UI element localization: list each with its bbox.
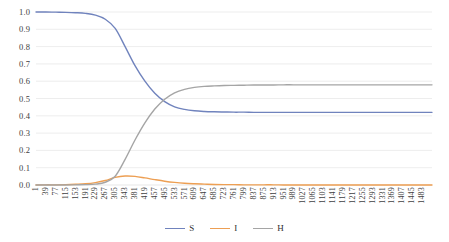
- x-axis-tick: 571: [180, 187, 190, 215]
- legend-label: S: [189, 223, 194, 233]
- x-axis-tick: 1027: [298, 187, 308, 215]
- x-axis-tick-label: 685: [210, 187, 218, 200]
- line-chart: 0.00.10.20.30.40.50.60.70.80.91.0 139771…: [0, 0, 449, 242]
- y-axis-tick-label: 0.1: [19, 163, 30, 173]
- x-axis-tick: 381: [130, 187, 140, 215]
- x-axis-tick: 343: [120, 187, 130, 215]
- x-axis-tick-label: 951: [280, 187, 288, 200]
- legend-swatch-icon: [165, 228, 185, 229]
- y-axis-tick-label: 0.6: [19, 76, 30, 86]
- x-axis-tick-label: 1445: [408, 187, 416, 204]
- x-axis-tick: 723: [219, 187, 229, 215]
- x-axis-tick-label: 1293: [369, 187, 377, 204]
- x-axis-tick-label: 1255: [359, 187, 367, 204]
- x-axis-tick: 1483: [417, 187, 427, 215]
- y-axis-tick-label: 0.7: [19, 59, 30, 69]
- x-axis-tick: 229: [90, 187, 100, 215]
- x-axis-tick: 875: [259, 187, 269, 215]
- x-axis-tick: 609: [189, 187, 199, 215]
- legend-item-s[interactable]: S: [165, 223, 194, 233]
- x-axis-tick-label: 1141: [329, 187, 337, 204]
- x-axis-tick-label: 533: [171, 187, 179, 200]
- y-axis-tick-label: 0.2: [19, 145, 30, 155]
- x-axis-tick: 685: [209, 187, 219, 215]
- x-axis-tick: 1: [31, 187, 41, 215]
- x-axis-tick-label: 761: [230, 187, 238, 200]
- x-axis-tick: 1293: [368, 187, 378, 215]
- y-axis-tick-label: 0.8: [19, 42, 30, 52]
- x-axis-tick: 305: [110, 187, 120, 215]
- legend-item-h[interactable]: H: [253, 223, 284, 233]
- x-axis-tick-label: 1: [32, 187, 40, 191]
- x-axis-tick: 267: [100, 187, 110, 215]
- x-axis-tick: 913: [269, 187, 279, 215]
- x-axis-tick-label: 1483: [418, 187, 426, 204]
- x-axis-tick: 837: [249, 187, 259, 215]
- x-axis-tick-label: 343: [121, 187, 129, 200]
- plot-area: [36, 12, 432, 185]
- x-axis-tick-label: 191: [82, 187, 90, 200]
- legend-item-i[interactable]: I: [210, 223, 237, 233]
- x-axis-tick-label: 1217: [349, 187, 357, 204]
- x-axis-tick: 1103: [318, 187, 328, 215]
- x-axis-tick: 77: [51, 187, 61, 215]
- x-axis-tick-label: 799: [240, 187, 248, 200]
- x-axis-tick: 457: [150, 187, 160, 215]
- x-axis-tick-label: 1369: [388, 187, 396, 204]
- x-axis-tick-label: 153: [72, 187, 80, 200]
- x-axis-tick: 1065: [308, 187, 318, 215]
- x-axis-tick-label: 115: [62, 187, 70, 199]
- x-axis-tick-label: 267: [101, 187, 109, 200]
- x-axis-tick: 1445: [407, 187, 417, 215]
- x-axis-tick: 1141: [328, 187, 338, 215]
- legend-label: I: [234, 223, 237, 233]
- x-axis-tick: 1331: [378, 187, 388, 215]
- x-axis-tick: 989: [288, 187, 298, 215]
- x-axis-tick: 799: [239, 187, 249, 215]
- x-axis-tick-label: 989: [289, 187, 297, 200]
- x-axis-tick-label: 837: [250, 187, 258, 200]
- x-axis-tick-label: 495: [161, 187, 169, 200]
- x-axis-tick-label: 39: [42, 187, 50, 195]
- x-axis-tick-label: 419: [141, 187, 149, 200]
- x-axis-tick: 647: [199, 187, 209, 215]
- y-axis: 0.00.10.20.30.40.50.60.70.80.91.0: [0, 0, 34, 185]
- x-axis-tick-label: 1407: [398, 187, 406, 204]
- y-axis-tick-label: 0.5: [19, 94, 30, 104]
- x-axis-tick-label: 647: [200, 187, 208, 200]
- legend-swatch-icon: [210, 228, 230, 229]
- x-axis-tick-label: 1103: [319, 187, 327, 204]
- chart-legend: SIH: [0, 219, 449, 237]
- x-axis-tick-label: 305: [111, 187, 119, 200]
- x-axis-tick: 533: [170, 187, 180, 215]
- y-axis-tick-label: 0.0: [19, 180, 30, 190]
- x-axis-tick: 761: [229, 187, 239, 215]
- y-axis-tick-label: 0.4: [19, 111, 30, 121]
- x-axis-tick-label: 381: [131, 187, 139, 200]
- y-axis-tick-label: 1.0: [19, 7, 30, 17]
- x-axis-tick: 1217: [348, 187, 358, 215]
- x-axis-tick: 419: [140, 187, 150, 215]
- x-axis-tick-label: 1027: [299, 187, 307, 204]
- x-axis-tick-label: 913: [270, 187, 278, 200]
- x-axis-tick: 191: [81, 187, 91, 215]
- x-axis-tick: 153: [71, 187, 81, 215]
- x-axis-tick: 115: [61, 187, 71, 215]
- x-axis-tick: 951: [279, 187, 289, 215]
- x-axis-tick-label: 457: [151, 187, 159, 200]
- series-line-h: [36, 85, 432, 185]
- x-axis-tick-label: 77: [52, 187, 60, 195]
- x-axis-tick: 1369: [387, 187, 397, 215]
- x-axis-tick-label: 609: [190, 187, 198, 200]
- y-axis-tick-label: 0.9: [19, 24, 30, 34]
- y-axis-tick-label: 0.3: [19, 128, 30, 138]
- x-axis: 1397711515319122926730534338141945749553…: [36, 187, 432, 217]
- x-axis-tick: 1255: [358, 187, 368, 215]
- legend-swatch-icon: [253, 228, 273, 229]
- x-axis-tick: 1179: [338, 187, 348, 215]
- x-axis-tick: 39: [41, 187, 51, 215]
- legend-label: H: [277, 223, 284, 233]
- series-lines: [36, 12, 432, 185]
- x-axis-tick-label: 723: [220, 187, 228, 200]
- x-axis-tick-label: 1179: [339, 187, 347, 204]
